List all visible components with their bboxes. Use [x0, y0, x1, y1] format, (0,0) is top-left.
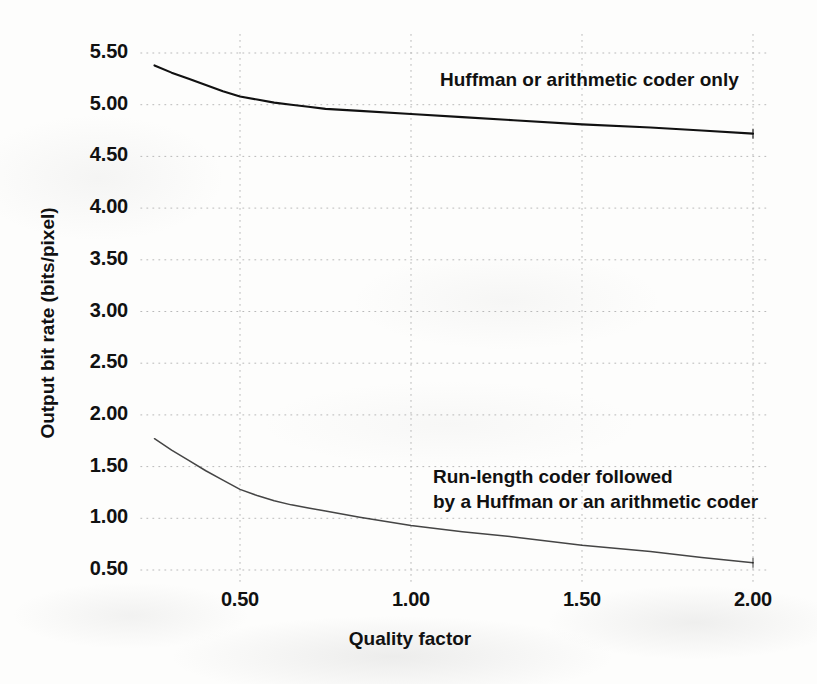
y-axis-title: Output bit rate (bits/pixel) [37, 178, 59, 468]
y-tick-label: 1.00 [58, 505, 128, 528]
y-tick-label: 3.00 [58, 299, 128, 322]
y-tick-label: 1.50 [58, 454, 128, 477]
y-tick-label: 4.00 [58, 195, 128, 218]
x-tick-label: 2.00 [713, 588, 793, 611]
y-tick-label: 2.50 [58, 350, 128, 373]
x-tick-label: 0.50 [200, 588, 280, 611]
x-tick-label: 1.00 [371, 588, 451, 611]
y-tick-label: 0.50 [58, 557, 128, 580]
y-tick-label: 3.50 [58, 247, 128, 270]
y-tick-label: 5.00 [58, 92, 128, 115]
x-tick-label: 1.50 [542, 588, 622, 611]
series-annotation-runlength: Run-length coder followed by a Huffman o… [433, 464, 758, 514]
y-tick-label: 4.50 [58, 143, 128, 166]
y-tick-label: 5.50 [58, 40, 128, 63]
series-annotation-huffman-only: Huffman or arithmetic coder only [440, 67, 739, 92]
chart-page: 0.501.001.502.002.503.003.504.004.505.00… [0, 0, 817, 684]
x-axis-title: Quality factor [310, 628, 510, 650]
y-tick-label: 2.00 [58, 402, 128, 425]
